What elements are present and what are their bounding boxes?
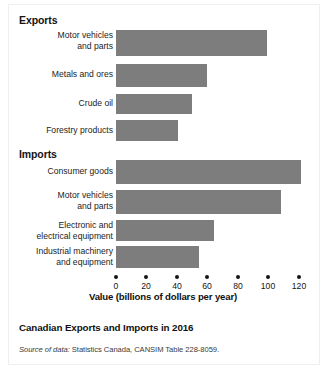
- source-rest: Statistics Canada, CANSIM Table 228-8059…: [70, 345, 219, 354]
- group-header-imports: Imports: [19, 148, 57, 160]
- axis-tick-dot-20: [144, 275, 148, 279]
- figure-caption: Canadian Exports and Imports in 2016: [19, 322, 193, 333]
- source-lead: Source of data:: [19, 345, 70, 354]
- bar-export-forestry-products: [116, 120, 178, 141]
- bar-export-crude-oil: [116, 94, 192, 114]
- category-label-line1: Electronic and: [59, 220, 113, 230]
- category-label-line1: Motor vehicles: [58, 190, 113, 200]
- axis-tick-dot-80: [236, 275, 240, 279]
- axis-tick-label-20: 20: [131, 281, 161, 291]
- bar-export-metals-and-ores: [116, 64, 207, 87]
- axis-tick-dot-100: [266, 275, 270, 279]
- category-label-line1: Forestry products: [46, 125, 113, 135]
- category-label-line2: electrical equipment: [37, 231, 113, 241]
- bar-import-electronic-equipment: [116, 220, 214, 241]
- category-label-line1: Industrial machinery: [36, 246, 113, 256]
- category-label-line1: Consumer goods: [48, 166, 113, 176]
- axis-tick-label-100: 100: [253, 281, 283, 291]
- bar-import-consumer-goods: [116, 160, 301, 184]
- axis-tick-dot-60: [205, 275, 209, 279]
- category-label-line2: and parts: [77, 41, 113, 51]
- axis-tick-label-40: 40: [162, 281, 192, 291]
- axis-tick-label-80: 80: [223, 281, 253, 291]
- bar-import-industrial-machinery: [116, 246, 199, 268]
- axis-tick-label-60: 60: [192, 281, 222, 291]
- bar-import-motor-vehicles: [116, 190, 281, 214]
- figure-source: Source of data: Statistics Canada, CANSI…: [19, 345, 219, 354]
- x-axis-title: Value (billions of dollars per year): [0, 291, 326, 302]
- axis-tick-label-120: 120: [284, 281, 314, 291]
- category-label-export-crude-oil: Crude oil: [13, 98, 113, 109]
- axis-tick-label-0: 0: [101, 281, 131, 291]
- category-label-import-electronic-equipment: Electronic andelectrical equipment: [3, 220, 113, 241]
- category-label-line1: Metals and ores: [52, 69, 113, 79]
- figure-container: Exports Motor vehiclesand parts Metals a…: [0, 0, 326, 369]
- category-label-line2: and equipment: [56, 257, 113, 267]
- group-header-exports: Exports: [19, 14, 57, 26]
- category-label-line2: and parts: [77, 201, 113, 211]
- axis-tick-dot-120: [297, 275, 301, 279]
- category-label-import-consumer-goods: Consumer goods: [13, 166, 113, 177]
- category-label-line1: Motor vehicles: [58, 30, 113, 40]
- category-label-export-motor-vehicles: Motor vehiclesand parts: [13, 30, 113, 51]
- category-label-import-industrial-machinery: Industrial machineryand equipment: [3, 246, 113, 267]
- chart-plot-area: Exports Motor vehiclesand parts Metals a…: [0, 0, 326, 300]
- category-label-export-metals-and-ores: Metals and ores: [13, 69, 113, 80]
- category-label-export-forestry-products: Forestry products: [13, 125, 113, 136]
- category-label-line1: Crude oil: [79, 98, 113, 108]
- axis-tick-dot-0: [114, 275, 118, 279]
- bar-export-motor-vehicles: [116, 30, 267, 56]
- axis-tick-dot-40: [175, 275, 179, 279]
- category-label-import-motor-vehicles: Motor vehiclesand parts: [13, 190, 113, 211]
